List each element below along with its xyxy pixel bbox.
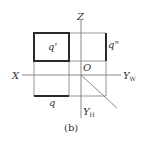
projections bbox=[34, 33, 106, 96]
projection-diagram: Z X O YW YH q' q" q (b) bbox=[0, 0, 142, 148]
front-view-label: q' bbox=[48, 41, 57, 52]
z-axis-label: Z bbox=[76, 11, 85, 22]
top-view-label: q bbox=[49, 97, 55, 108]
diagonal-45-line bbox=[81, 75, 117, 108]
labels: Z X O YW YH q' q" q (b) bbox=[11, 11, 137, 133]
figure-caption: (b) bbox=[64, 122, 78, 133]
yw-axis-label: YW bbox=[123, 70, 137, 82]
x-axis-label: X bbox=[11, 70, 20, 81]
side-view-label: q" bbox=[108, 39, 119, 50]
yh-axis-label: YH bbox=[83, 106, 95, 118]
origin-label: O bbox=[83, 62, 91, 73]
